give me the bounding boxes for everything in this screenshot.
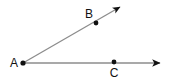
ray-ab <box>23 7 120 63</box>
point-c-label: C <box>110 66 119 79</box>
point-c-dot <box>112 60 117 65</box>
point-a-dot <box>20 60 25 65</box>
point-a-label: A <box>10 56 18 70</box>
angle-diagram: A B C <box>0 0 178 79</box>
point-b-dot <box>94 21 99 26</box>
angle-diagram-canvas: A B C <box>0 0 178 79</box>
point-b-label: B <box>85 7 93 21</box>
